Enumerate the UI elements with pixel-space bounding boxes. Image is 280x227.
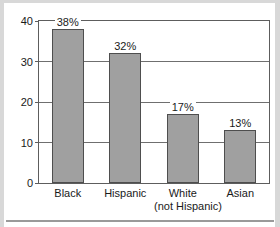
y-axis-tick-mark <box>35 21 39 22</box>
bar-value-label: 13% <box>227 118 253 129</box>
y-axis-tick-label: 20 <box>21 97 33 108</box>
y-axis-tick-label: 10 <box>21 137 33 148</box>
x-axis-tick-group: Black <box>39 187 97 200</box>
plot-area: 01020304038%Black32%Hispanic17%White(not… <box>38 20 270 184</box>
bar: 17% <box>167 114 199 183</box>
y-axis-tick-label: 40 <box>21 16 33 27</box>
x-axis-tick-group: Asian <box>212 187 270 200</box>
bar: 38% <box>52 29 84 183</box>
y-axis-tick-mark <box>35 102 39 103</box>
y-axis-tick-label: 0 <box>27 178 33 189</box>
x-axis-category-label: White <box>154 187 212 200</box>
x-axis-category-label: Black <box>39 187 97 200</box>
horizontal-rule <box>6 220 274 222</box>
bar-value-label: 38% <box>55 17 81 28</box>
bar: 32% <box>109 53 141 183</box>
x-axis-category-label: Hispanic <box>97 187 155 200</box>
y-axis-tick-mark <box>35 183 39 184</box>
x-axis-tick-group: White(not Hispanic) <box>154 187 212 213</box>
y-axis-tick-label: 30 <box>21 56 33 67</box>
x-axis-category-sublabel: (not Hispanic) <box>154 200 212 213</box>
page-edge-top <box>0 0 280 3</box>
x-axis-category-label: Asian <box>212 187 270 200</box>
bar-chart-figure: 01020304038%Black32%Hispanic17%White(not… <box>0 0 280 227</box>
bar-value-label: 17% <box>170 102 196 113</box>
y-axis-tick-mark <box>35 142 39 143</box>
bar-value-label: 32% <box>112 41 138 52</box>
bar: 13% <box>224 130 256 183</box>
page-edge-right <box>275 0 280 227</box>
y-axis-tick-mark <box>35 61 39 62</box>
x-axis-tick-group: Hispanic <box>97 187 155 200</box>
page-edge-left <box>0 0 4 227</box>
